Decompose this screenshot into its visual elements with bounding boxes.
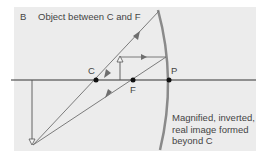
point-c [94, 78, 99, 83]
label-c: C [88, 66, 95, 76]
arrowhead-up-icon [133, 31, 140, 40]
label-p: P [171, 66, 177, 76]
caption-line: beyond C [172, 135, 255, 147]
panel-letter: B [20, 12, 26, 22]
caption-line: Magnified, inverted, [172, 112, 255, 124]
panel-title: Object between C and F [38, 12, 140, 22]
caption: Magnified, inverted, real image formed b… [172, 112, 255, 147]
arrowhead-down-icon [104, 69, 111, 78]
label-f: F [130, 85, 136, 95]
caption-line: real image formed [172, 124, 255, 136]
ray-through-focus [33, 57, 166, 145]
arrowhead-right-icon [141, 54, 147, 60]
point-p [167, 78, 172, 83]
point-f [131, 78, 136, 83]
